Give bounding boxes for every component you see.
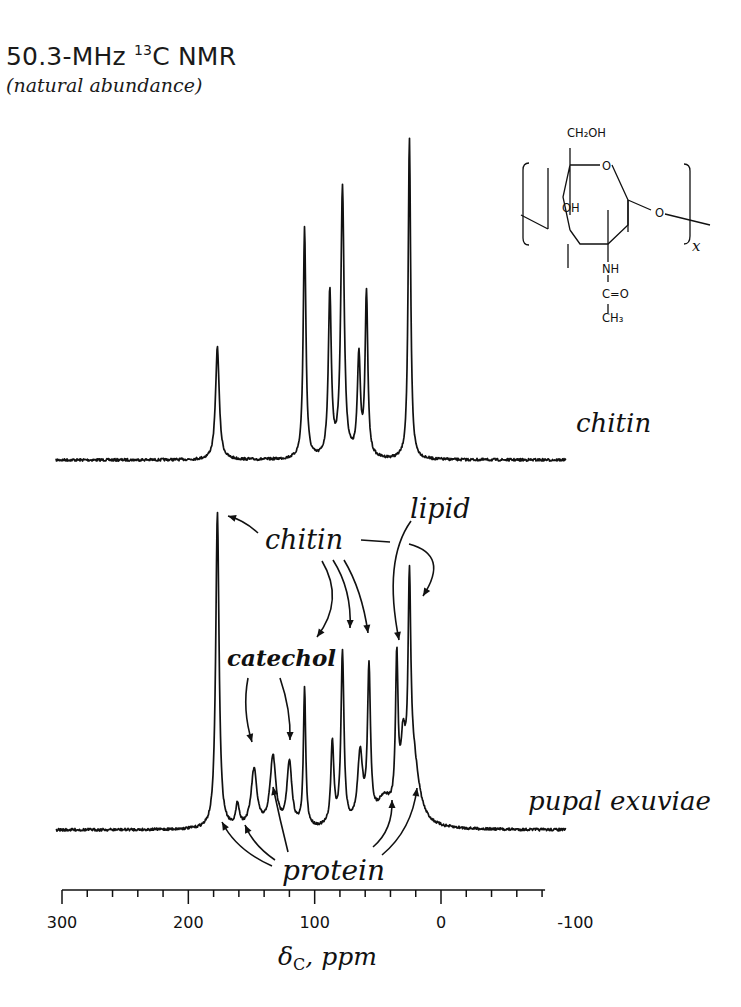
nmr-chart: 3002001000-100 chitin pupal exuviae chit…	[0, 0, 741, 1007]
bracket-right	[684, 164, 690, 244]
x-axis-label-unit: , ppm	[305, 942, 377, 971]
arrow-catechol-1	[246, 678, 252, 742]
spectrum-line-pupal-exuviae	[56, 513, 566, 832]
chem-ring-o: O	[602, 159, 611, 173]
tick-label-0: 0	[436, 913, 446, 932]
arrowhead	[363, 625, 370, 633]
arrow-chitin-c1	[317, 561, 332, 637]
bracket-left	[523, 163, 529, 245]
spectrum-line-chitin	[56, 138, 566, 461]
annotation-protein: protein	[282, 854, 385, 887]
spectra-group	[56, 138, 566, 831]
series-label-chitin: chitin	[576, 408, 651, 438]
arrow-lipid-2	[409, 544, 434, 596]
arrowhead	[317, 629, 325, 638]
tick-label-200: 200	[173, 913, 204, 932]
tick-label-100: 100	[299, 913, 330, 932]
chem-ch2oh: CH₂OH	[567, 126, 606, 140]
tick-label-300: 300	[47, 913, 78, 932]
arrowhead	[394, 632, 401, 641]
arrowheads	[222, 515, 430, 834]
arrowhead	[389, 800, 396, 808]
arrow-catechol-2	[280, 678, 290, 740]
chem-oh: OH	[562, 201, 580, 215]
bond-glycosidic	[628, 200, 710, 225]
chem-nh: NH	[602, 262, 619, 276]
x-axis: 3002001000-100	[47, 890, 594, 932]
arrow-protein-5	[382, 788, 417, 855]
x-axis-label: δC, ppm	[278, 942, 377, 974]
chem-repeat-subscript: x	[692, 237, 701, 255]
annotation-catechol: catechol	[227, 644, 336, 671]
arrowhead	[412, 788, 419, 796]
annotation-chitin: chitin	[265, 524, 343, 555]
series-label-pupal-exuviae: pupal exuviae	[528, 786, 711, 816]
arrowhead	[347, 620, 354, 628]
arrowhead	[228, 515, 237, 522]
annotation-lipid: lipid	[410, 493, 470, 524]
chem-co: C=O	[602, 287, 629, 301]
arrow-chitin-c4	[333, 560, 350, 628]
arrowhead	[287, 732, 294, 740]
chitin-dash	[361, 540, 390, 542]
tick-label--100: -100	[557, 913, 593, 932]
chem-glycosidic-o: O	[655, 206, 664, 220]
x-axis-label-delta: δ	[278, 942, 293, 971]
x-axis-label-sub: C	[293, 955, 305, 974]
bond-left	[521, 168, 548, 229]
arrowhead	[246, 733, 253, 742]
chem-ch3: CH₃	[602, 311, 624, 325]
